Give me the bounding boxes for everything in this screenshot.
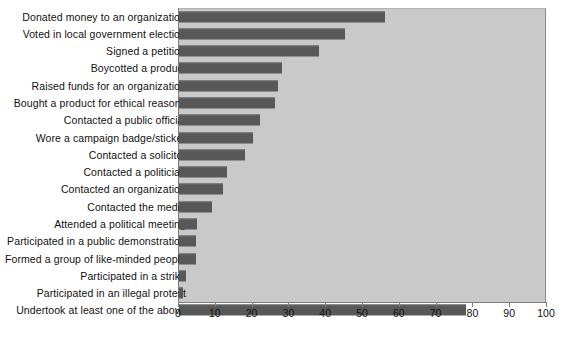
bar-rows: Donated money to an organizationVoted in… [0,8,569,302]
bar-row: Contacted a politician [0,164,569,181]
tick-label: 100 [537,308,555,319]
category-label: Contacted a politician [83,167,186,178]
bar-track [179,250,547,267]
category-label: Attended a political meeting [54,219,186,230]
bar-track [179,164,547,181]
bar-track [179,129,547,146]
category-label: Bought a product for ethical reasons [14,98,186,109]
category-label: Participated in a strike [80,271,186,282]
bar-row: Contacted the media [0,198,569,215]
bar-track [179,285,547,302]
bar [179,46,319,57]
bar [179,11,385,22]
bar-row: Participated in a public demonstration [0,233,569,250]
category-label: Voted in local government election [23,29,186,40]
tick-label: 20 [246,308,258,319]
tick-label: 40 [319,308,331,319]
bar-track [179,198,547,215]
category-label: Boycotted a product [91,63,186,74]
bar-row: Raised funds for an organization [0,77,569,94]
category-label: Undertook at least one of the above [16,305,186,316]
tick-label: 80 [467,308,479,319]
bar [179,28,345,39]
bar-row: Signed a petition [0,43,569,60]
bar-row: Boycotted a product [0,60,569,77]
bar [179,149,245,160]
bar-row: Participated in a strike [0,267,569,284]
bar-track [179,8,547,25]
bar-track [179,25,547,42]
bar-row: Wore a campaign badge/sticker [0,129,569,146]
category-label: Participated in a public demonstration [7,236,186,247]
bar-row: Voted in local government election [0,25,569,42]
bar-row: Formed a group of like-minded people [0,250,569,267]
bar-track [179,112,547,129]
bar [179,63,282,74]
tick-label: 30 [283,308,295,319]
bar [179,236,196,247]
bar [179,270,186,281]
bar-track [179,94,547,111]
tick-label: 10 [209,308,221,319]
bar-track [179,233,547,250]
bar-track [179,60,547,77]
bar [179,219,197,230]
bar [179,201,212,212]
category-label: Formed a group of like-minded people [5,253,186,264]
bar-track [179,267,547,284]
bar-row: Attended a political meeting [0,215,569,232]
bar-row: Participated in an illegal protest [0,285,569,302]
tick-label: 70 [430,308,442,319]
x-axis-ticks: 0102030405060708090100 [178,302,546,332]
category-label: Contacted a solicitor [89,150,186,161]
category-label: Donated money to an organization [22,11,186,22]
bar-row: Contacted a solicitor [0,146,569,163]
category-label: Contacted the media [87,201,186,212]
tick-label: 50 [356,308,368,319]
bar-row: Contacted a public official [0,112,569,129]
category-label: Signed a petition [106,46,186,57]
bar [179,253,196,264]
bar-track [179,181,547,198]
bar [179,115,260,126]
bar [179,184,223,195]
bar [179,288,183,299]
bar-track [179,146,547,163]
bar [179,80,278,91]
bar-chart: Donated money to an organizationVoted in… [0,0,569,337]
category-label: Contacted an organization [61,184,186,195]
bar [179,98,275,109]
bar [179,167,227,178]
category-label: Participated in an illegal protest [37,288,186,299]
category-label: Contacted a public official [64,115,186,126]
bar-track [179,43,547,60]
bar-row: Bought a product for ethical reasons [0,94,569,111]
category-label: Raised funds for an organization [32,81,186,92]
bar-row: Donated money to an organization [0,8,569,25]
bar-track [179,77,547,94]
tick-label: 60 [393,308,405,319]
tick-label: 0 [175,308,181,319]
bar-track [179,215,547,232]
tick-label: 90 [503,308,515,319]
bar-row: Contacted an organization [0,181,569,198]
category-label: Wore a campaign badge/sticker [36,132,186,143]
bar [179,132,253,143]
